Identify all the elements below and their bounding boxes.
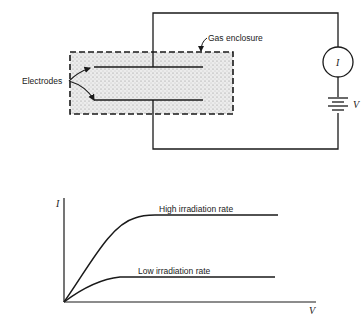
- ammeter-label: I: [335, 57, 340, 68]
- x-axis-label: V: [309, 305, 317, 316]
- battery-icon: [328, 98, 348, 110]
- iv-graph: I V High irradiation rate Low irradiatio…: [55, 198, 317, 316]
- gas-enclosure: [70, 52, 233, 114]
- low-irradiation-label: Low irradiation rate: [138, 266, 211, 276]
- gas-enclosure-leader: [201, 38, 207, 51]
- high-irradiation-label: High irradiation rate: [159, 204, 233, 214]
- curve-high-irradiation: [64, 215, 278, 302]
- y-axis-label: I: [55, 198, 60, 209]
- battery-voltage-label: V: [353, 99, 361, 110]
- diagram-canvas: Electrodes Gas enclosure I V I V High ir…: [0, 0, 363, 318]
- ammeter-icon: I: [323, 47, 353, 77]
- electrodes-label: Electrodes: [22, 76, 62, 86]
- gas-enclosure-label: Gas enclosure: [208, 33, 263, 43]
- curve-low-irradiation: [64, 277, 275, 302]
